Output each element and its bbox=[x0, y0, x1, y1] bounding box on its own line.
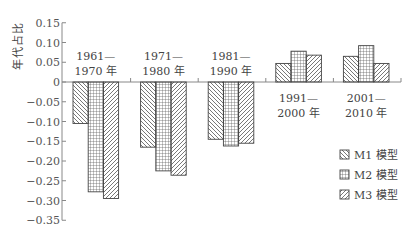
legend-label: M2 模型 bbox=[354, 168, 398, 182]
y-tick-label: 0.05 bbox=[36, 56, 61, 69]
bar-m2-0 bbox=[88, 82, 103, 192]
legend-swatch-icon bbox=[340, 190, 349, 199]
bar-m3-2 bbox=[239, 82, 254, 143]
category-label: 1970 年 bbox=[75, 64, 118, 78]
y-axis: 0.150.100.050−0.05−0.10−0.15−0.20−0.25−0… bbox=[26, 17, 66, 228]
bar-m2-1 bbox=[156, 82, 171, 171]
bar-chart: 0.150.100.050−0.05−0.10−0.15−0.20−0.25−0… bbox=[0, 0, 413, 239]
legend-item-1: M1 模型 bbox=[340, 148, 398, 162]
legend-label: M1 模型 bbox=[354, 148, 398, 162]
y-tick-label: −0.35 bbox=[26, 214, 60, 227]
svg-text:年: 年 bbox=[11, 59, 25, 70]
bar-m3-0 bbox=[103, 82, 118, 199]
category-label: 1961— bbox=[76, 50, 115, 63]
y-axis-label: 年代占比 bbox=[11, 23, 25, 70]
svg-text:占: 占 bbox=[11, 35, 25, 46]
legend-swatch-icon bbox=[340, 150, 349, 159]
bar-m3-4 bbox=[374, 63, 389, 82]
legend-label: M3 模型 bbox=[354, 188, 398, 202]
legend-swatch-icon bbox=[340, 170, 349, 179]
legend-item-2: M2 模型 bbox=[340, 168, 398, 182]
bar-m1-3 bbox=[276, 63, 291, 82]
bar-m2-3 bbox=[291, 51, 306, 82]
legend-item-3: M3 模型 bbox=[340, 188, 398, 202]
bar-m3-1 bbox=[171, 82, 186, 175]
y-tick-label: 0.10 bbox=[36, 37, 61, 50]
y-tick-label: −0.10 bbox=[26, 116, 60, 129]
y-tick-label: 0.15 bbox=[36, 17, 61, 30]
category-label: 2000 年 bbox=[277, 106, 320, 120]
bar-m2-4 bbox=[359, 46, 374, 82]
category-label: 1991— bbox=[279, 92, 318, 105]
y-tick-label: 0 bbox=[53, 76, 60, 89]
bar-m3-3 bbox=[306, 55, 321, 82]
svg-text:比: 比 bbox=[12, 23, 25, 34]
category-label: 1981— bbox=[212, 50, 251, 63]
bar-m1-1 bbox=[141, 82, 156, 147]
bar-m1-0 bbox=[73, 82, 88, 123]
category-label: 2010 年 bbox=[345, 106, 388, 120]
y-tick-label: −0.30 bbox=[26, 195, 60, 208]
svg-text:代: 代 bbox=[12, 47, 25, 58]
category-label: 1971— bbox=[144, 50, 183, 63]
category-label: 2001— bbox=[347, 92, 386, 105]
bar-m2-2 bbox=[223, 82, 238, 146]
y-tick-label: −0.20 bbox=[26, 155, 60, 168]
y-tick-label: −0.05 bbox=[26, 96, 60, 109]
legend: M1 模型M2 模型M3 模型 bbox=[340, 148, 398, 202]
category-label: 1990 年 bbox=[210, 64, 253, 78]
y-tick-label: −0.15 bbox=[26, 135, 60, 148]
y-tick-label: −0.25 bbox=[26, 175, 60, 188]
bar-m1-2 bbox=[208, 82, 223, 139]
category-label: 1980 年 bbox=[142, 64, 185, 78]
bar-m1-4 bbox=[343, 56, 358, 82]
